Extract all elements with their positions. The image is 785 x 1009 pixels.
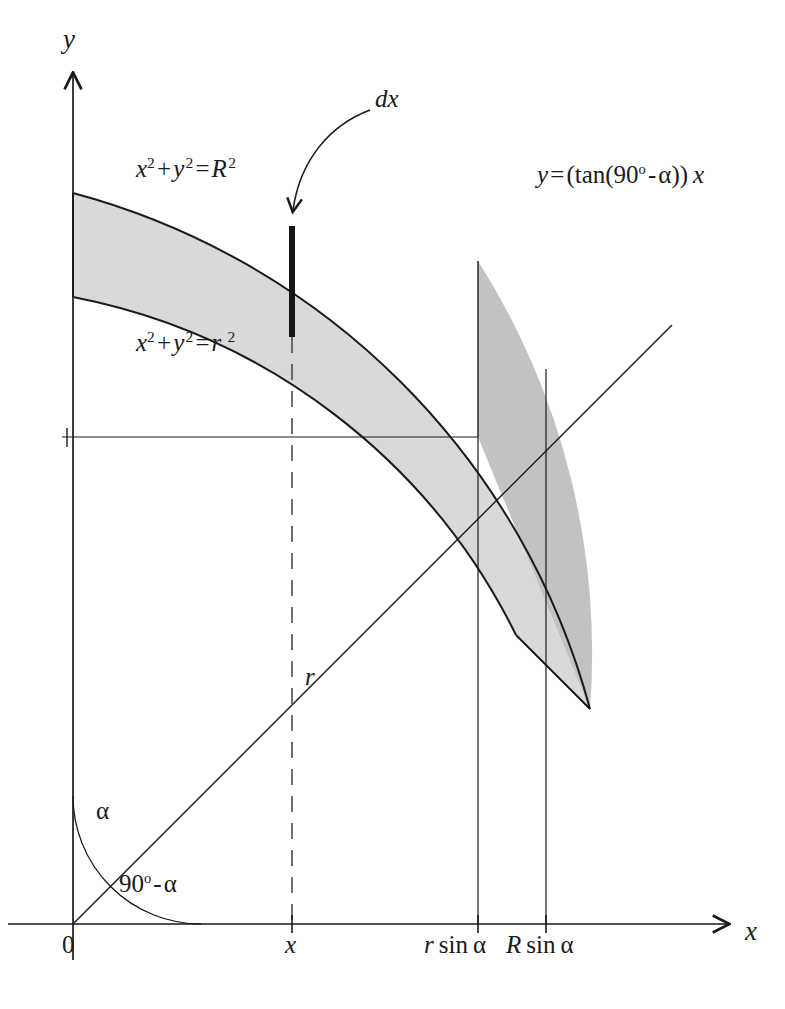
dx-pointer-arrow	[293, 110, 370, 210]
outer-circle-equation: x2 + y 2 = R 2	[136, 155, 236, 181]
ray-line-equation: y = (tan(90o - α)) x	[537, 162, 704, 187]
origin-label: 0	[62, 932, 75, 957]
x-axis-label: x	[745, 918, 757, 945]
inner-circle-equation: x2 + y 2 = r 2	[136, 329, 235, 355]
dx-label: dx	[375, 86, 399, 111]
radius-r-label: r	[305, 664, 315, 689]
x-tick-label-r-sin-alpha: r sin α	[424, 932, 486, 957]
x-tick-label-R-sin-alpha: R sin α	[506, 932, 574, 957]
x-tick-label-x: x	[285, 932, 296, 957]
angle-ninety-minus-alpha-label: 90o - α	[119, 871, 177, 896]
y-axis-label: y	[63, 26, 75, 53]
geometry-figure	[0, 0, 785, 1009]
angle-alpha-label: α	[96, 798, 109, 823]
